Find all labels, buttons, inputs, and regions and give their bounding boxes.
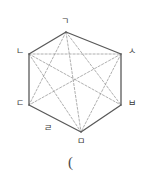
vertex-label-b: ㅅ	[128, 47, 136, 56]
hexagon-diagram-svg	[0, 0, 144, 180]
edge-c-d	[81, 105, 121, 132]
diagonal-b-d	[81, 54, 121, 132]
vertex-label-f: ㄴ	[16, 47, 24, 56]
vertex-label-e: ㄷ	[16, 99, 24, 108]
hexagon-figure: ㄱㅅㅂㅁㄷㄴㄹ (	[0, 0, 144, 180]
vertex-label-d: ㅁ	[77, 137, 85, 146]
hexagon-outline-group	[29, 32, 121, 132]
edge-d-e	[29, 105, 81, 132]
vertex-label-a: ㄱ	[61, 17, 69, 26]
vertex-label-c: ㅂ	[128, 99, 136, 108]
edge-label-g: ㄹ	[44, 124, 52, 133]
open-paren-label: (	[68, 155, 73, 170]
diagonal-f-d	[29, 54, 81, 132]
hexagon-diagonals-group	[29, 32, 121, 132]
